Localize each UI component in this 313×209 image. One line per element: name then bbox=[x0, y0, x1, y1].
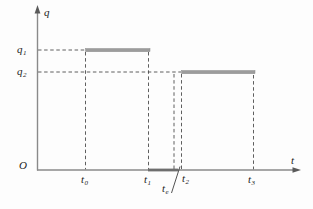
t0-tick-label: t0 bbox=[81, 174, 88, 187]
q1-tick-label: q1 bbox=[17, 44, 26, 57]
step-segment-zero bbox=[148, 169, 178, 172]
step-function-diagram: q t O q1 q2 t0 t1 t2 t3 te bbox=[0, 0, 313, 209]
t2-tick-label: t2 bbox=[182, 173, 189, 186]
plot-canvas bbox=[0, 0, 313, 209]
origin-label: O bbox=[19, 160, 27, 171]
step-segment-q2 bbox=[182, 71, 256, 74]
x-axis-arrow-icon bbox=[293, 167, 302, 173]
t1-tick-label: t1 bbox=[144, 174, 151, 187]
step-segment-q1 bbox=[86, 49, 151, 52]
y-axis-label: q bbox=[44, 7, 50, 18]
x-axis-label: t bbox=[291, 155, 294, 166]
q2-tick-label: q2 bbox=[17, 66, 26, 79]
te-tick-label: te bbox=[162, 183, 168, 196]
y-axis-arrow-icon bbox=[35, 5, 41, 14]
t3-tick-label: t3 bbox=[248, 174, 255, 187]
